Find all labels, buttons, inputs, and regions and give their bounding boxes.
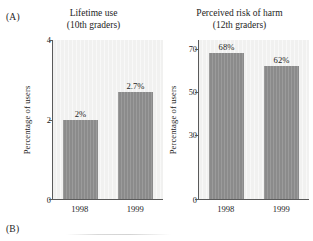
x-tick-label: 1998 (208, 204, 244, 220)
y-tick-mark (195, 49, 199, 50)
chart-perceived-risk: Perceived risk of harm (12th graders) Pe… (168, 8, 311, 222)
y-tick-label: 0 (193, 196, 197, 205)
bar-value-label: 2% (75, 109, 86, 119)
bar-value-label: 68% (219, 42, 235, 52)
y-tick-mark (49, 120, 53, 121)
chart-lifetime-use-y-axis-label: Percentage of users (21, 40, 34, 200)
x-tick-label: 1999 (117, 204, 153, 220)
chart-lifetime-use-subtitle: (10th graders) (24, 20, 163, 32)
chart-perceived-risk-y-axis-label: Percentage of users (167, 40, 180, 200)
bar-1999 (118, 92, 153, 199)
chart-perceived-risk-title: Perceived risk of harm (12th graders) (168, 8, 311, 31)
y-tick-mark (195, 135, 199, 136)
bar-group-1999: 62% (264, 40, 299, 199)
chart-perceived-risk-y-tick-labels: 0 30 50 70 (181, 40, 198, 200)
bar-1999 (264, 66, 299, 199)
y-tick-mark (195, 92, 199, 93)
chart-perceived-risk-axes: 68% 62% (198, 40, 309, 200)
x-tick-label: 1999 (263, 204, 299, 220)
chart-perceived-risk-bars: 68% 62% (199, 40, 309, 199)
bar-value-label: 62% (274, 55, 290, 65)
chart-perceived-risk-subtitle: (12th graders) (170, 20, 309, 32)
y-axis-line (198, 40, 199, 200)
chart-lifetime-use-plot: Percentage of users 0 2 4 2% 2.7% (22, 40, 165, 200)
figure-panel-a: (A) Lifetime use (10th graders) Percenta… (0, 0, 313, 241)
y-tick-label: 0 (47, 196, 51, 205)
chart-lifetime-use: Lifetime use (10th graders) Percentage o… (22, 8, 165, 222)
y-tick-mark (49, 40, 53, 41)
chart-perceived-risk-plot: Percentage of users 0 30 50 70 68% 62% (168, 40, 311, 200)
chart-lifetime-use-axes: 2% 2.7% (52, 40, 163, 200)
panel-a-label: (A) (6, 12, 20, 22)
chart-lifetime-use-bars: 2% 2.7% (53, 40, 163, 199)
panel-b-label: (B) (6, 224, 19, 234)
bar-1998 (63, 120, 98, 200)
chart-lifetime-use-title-main: Lifetime use (70, 8, 118, 18)
panel-b-divider (66, 234, 171, 235)
chart-perceived-risk-title-main: Perceived risk of harm (196, 8, 282, 18)
bar-group-1998: 2% (63, 40, 98, 199)
chart-lifetime-use-x-tick-labels: 1998 1999 (52, 200, 163, 220)
chart-perceived-risk-x-tick-labels: 1998 1999 (198, 200, 309, 220)
x-tick-label: 1998 (62, 204, 98, 220)
bar-value-label: 2.7% (127, 81, 145, 91)
bar-1998 (209, 53, 244, 199)
chart-lifetime-use-title: Lifetime use (10th graders) (22, 8, 165, 31)
bar-group-1998: 68% (209, 40, 244, 199)
bar-group-1999: 2.7% (118, 40, 153, 199)
